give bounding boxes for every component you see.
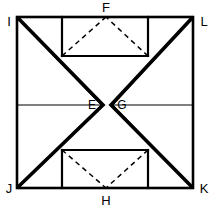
vertex-label-K: K xyxy=(200,181,209,196)
geometric-figure-canvas: I F L J H K E G xyxy=(0,0,215,211)
dashed-fold-bottom-right xyxy=(106,150,148,188)
interior-label-E: E xyxy=(88,98,96,112)
vertex-label-J: J xyxy=(6,181,13,196)
vertex-label-I: I xyxy=(7,14,11,29)
vertex-label-H: H xyxy=(101,193,110,208)
interior-label-G: G xyxy=(117,98,126,112)
figure-svg: I F L J H K E G xyxy=(0,0,215,211)
dashed-fold-top-right xyxy=(106,17,148,56)
dashed-fold-bottom-left xyxy=(62,150,106,188)
vertex-label-L: L xyxy=(200,14,207,29)
vertex-label-F: F xyxy=(102,0,110,15)
dashed-fold-top-left xyxy=(62,17,106,56)
